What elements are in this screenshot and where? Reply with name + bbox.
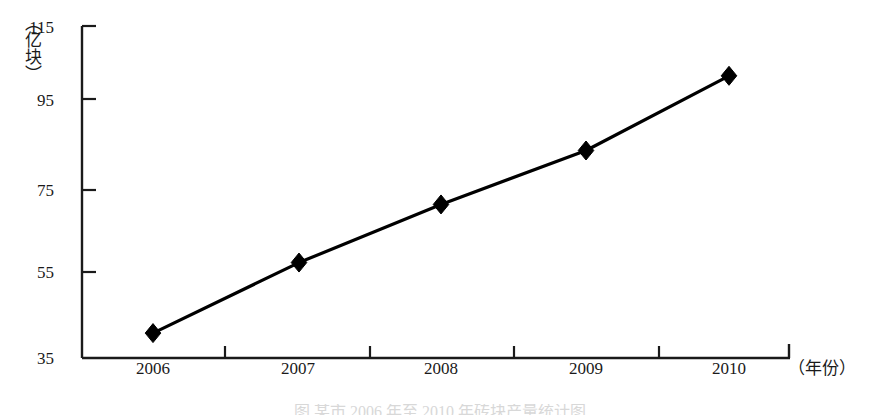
data-point-2008 [433,195,449,214]
data-point-2007 [291,253,307,272]
data-point-2006 [145,324,161,343]
data-point-2009 [578,141,594,160]
cut-off-caption: 图 某市 2006 年至 2010 年砖块产量统计图 [150,404,730,415]
plot-area [0,0,878,415]
data-point-2010 [721,66,737,85]
line-chart: （亿块） 115 95 75 55 35 2006 2007 2008 2009… [0,0,878,415]
data-point-markers [145,66,737,342]
